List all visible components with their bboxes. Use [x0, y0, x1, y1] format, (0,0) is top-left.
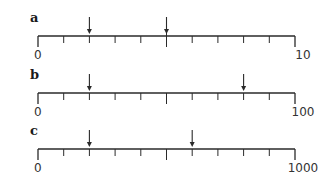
number-line-a: a010 — [30, 10, 311, 62]
number-line-b: b0100 — [30, 67, 314, 119]
start-value: 0 — [34, 161, 42, 175]
end-value: 100 — [292, 105, 315, 119]
end-value: 1000 — [288, 161, 319, 175]
end-value: 10 — [295, 48, 310, 62]
part-label: b — [30, 67, 39, 82]
arrow-down-icon — [190, 130, 195, 147]
number-lines-diagram: a010b0100c01000 — [0, 0, 322, 184]
arrow-down-icon — [87, 74, 92, 91]
arrow-down-icon — [87, 17, 92, 34]
arrow-down-icon — [87, 130, 92, 147]
arrow-down-icon — [241, 74, 246, 91]
part-label: a — [30, 10, 39, 25]
part-label: c — [30, 123, 38, 138]
start-value: 0 — [34, 105, 42, 119]
start-value: 0 — [34, 48, 42, 62]
number-line-c: c01000 — [30, 123, 318, 175]
arrow-down-icon — [164, 17, 169, 34]
